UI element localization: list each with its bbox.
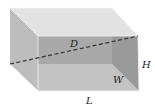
box-diagram	[0, 0, 155, 108]
width-label: W	[113, 75, 123, 85]
length-label: L	[86, 96, 93, 106]
height-label: H	[142, 60, 151, 70]
diagonal-label: D	[70, 39, 78, 49]
